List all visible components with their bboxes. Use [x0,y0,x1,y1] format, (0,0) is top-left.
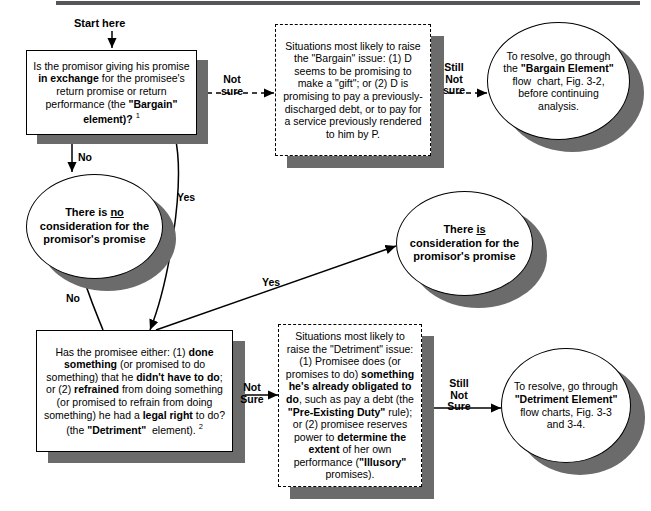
edge-label-detriment-still-not-sure: StillNotSure [440,378,478,413]
is-consideration-ellipse: There is consideration for the promisor'… [396,191,533,296]
resolve-bargain-text: To resolve, go through the "Bargain Elem… [488,50,629,113]
flowchart-canvas: Start here Notsure StillNotsure No Yes N… [0,0,651,511]
edge-label-bargain-yes: Yes [177,192,195,204]
detriment-note-box: Situations most likely to raise the "Det… [278,324,422,487]
no-consideration-text: There is no consideration for the promis… [27,206,162,247]
start-here-label: Start here [74,17,125,29]
resolve-bargain-ellipse: To resolve, go through the "Bargain Elem… [487,22,630,140]
detriment-note-text: Situations most likely to raise the "Det… [279,327,421,484]
bargain-question-box: Is the promisor giving his promise in ex… [26,50,197,135]
scanned-page-rule [56,1,640,5]
resolve-detriment-text: To resolve, go through "Detriment Elemen… [502,380,630,430]
no-consideration-ellipse: There is no consideration for the promis… [26,174,163,279]
resolve-detriment-ellipse: To resolve, go through "Detriment Elemen… [501,348,631,463]
bargain-note-text: Situations most likely to raise the "Bar… [276,37,430,144]
edge-label-bargain-no: No [78,152,92,164]
detriment-question-box: Has the promisee either: (1) done someth… [36,330,233,452]
detriment-question-text: Has the promisee either: (1) done someth… [37,343,232,440]
bargain-question-text: Is the promisor giving his promise in ex… [27,57,196,128]
bargain-note-box: Situations most likely to raise the "Bar… [275,24,431,156]
edge-label-detriment-yes: Yes [262,277,280,289]
is-consideration-text: There is consideration for the promisor'… [397,223,532,264]
edge-label-detriment-not-sure: NotSure [234,382,270,405]
edge-label-bargain-still-not-sure: StillNotsure [436,62,472,97]
edge-label-no-consideration-no: No [66,293,80,305]
edge-label-bargain-not-sure: Notsure [214,74,250,97]
